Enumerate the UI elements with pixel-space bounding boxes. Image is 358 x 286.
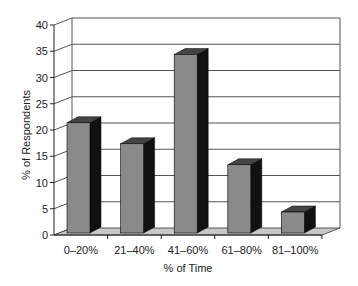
y-tick-label: 30 — [36, 72, 48, 84]
x-axis-title: % of Time — [164, 262, 213, 274]
y-tick-label: 35 — [36, 45, 48, 57]
bar-chart: 0510152025303540 0–20%21–40%41–60%61–80%… — [0, 0, 358, 286]
y-tick-label: 10 — [36, 177, 48, 189]
x-category-label: 81–100% — [272, 244, 319, 256]
bar — [281, 206, 315, 233]
x-category-label: 21–40% — [114, 244, 155, 256]
y-tick-label: 25 — [36, 98, 48, 110]
x-category-label: 41–60% — [168, 244, 209, 256]
bar — [121, 138, 155, 233]
y-tick-label: 5 — [42, 203, 48, 215]
y-axis: 0510152025303540 — [36, 19, 54, 241]
x-axis: 0–20%21–40%41–60%61–80%81–100% — [54, 235, 322, 256]
x-category-label: 61–80% — [221, 244, 262, 256]
y-tick-label: 40 — [36, 19, 48, 31]
bar — [228, 159, 262, 233]
x-category-label: 0–20% — [64, 244, 98, 256]
y-tick-label: 15 — [36, 150, 48, 162]
y-tick-label: 20 — [36, 124, 48, 136]
bar — [174, 49, 208, 234]
y-axis-title: % of Respondents — [20, 90, 32, 180]
bar — [67, 117, 101, 233]
y-tick-label: 0 — [42, 229, 48, 241]
chart-bars — [67, 49, 315, 234]
